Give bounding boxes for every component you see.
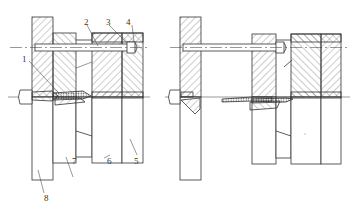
marker-dot <box>304 133 306 135</box>
label-4: 4 <box>126 17 131 27</box>
guide-bolt <box>10 42 150 53</box>
label-8: 8 <box>44 193 49 203</box>
left-view <box>8 17 150 180</box>
label-1: 1 <box>22 54 27 64</box>
label-7: 7 <box>72 156 77 166</box>
label-5: 5 <box>134 156 139 166</box>
label-6: 6 <box>107 156 112 166</box>
label-2: 2 <box>84 17 89 27</box>
label-3: 3 <box>106 17 111 27</box>
drawing-canvas: 1 2 3 4 5 6 7 8 <box>0 0 363 213</box>
right-view <box>165 17 350 180</box>
